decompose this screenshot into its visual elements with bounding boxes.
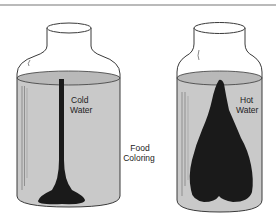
cold-water-label-line2: Water [70,105,93,115]
hot-water-label-line2: Water [236,105,259,115]
food-coloring-label-line2: Coloring [123,153,155,163]
cold-jar-highlight [28,60,30,66]
hot-jar-mouth [194,23,245,34]
hot-water-label-line1: Hot [240,95,254,105]
hot-water-jar: Hot Water [177,23,262,213]
food-coloring-diffusion-diagram: Cold Water Hot Water Food Coloring [0,0,278,222]
cold-jar-mouth [47,23,91,33]
cold-water-jar: Cold Water [17,23,120,207]
cold-water-surface [17,71,120,85]
hot-jar-highlight [198,50,199,60]
cold-water-label-line1: Cold [71,95,89,105]
food-coloring-label-line1: Food [130,143,150,153]
